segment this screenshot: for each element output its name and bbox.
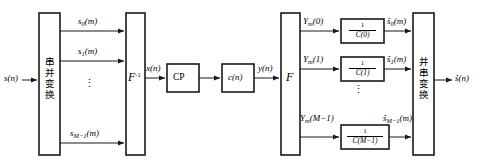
signal-label-s1: s1(m)	[78, 46, 97, 56]
signal-label-x: x(n)	[146, 63, 161, 73]
input-label: s(n)	[4, 73, 18, 83]
block-label-cp: CP	[173, 72, 185, 82]
signal-label-ym0: Ym(0)	[303, 16, 323, 26]
equalizer-fraction-m1: 1 C(M−1)	[347, 128, 383, 145]
block-label-idft: F-1	[128, 70, 141, 85]
output-label: ŝ(n)	[455, 73, 469, 83]
ellipsis-left: ⋮	[83, 82, 95, 86]
signal-label-sm1: sM−1(m)	[70, 128, 99, 138]
ofdm-block-diagram: s(n) ŝ(n) 串并变换 并串变换 F-1 F CP c(n) s0(m) …	[0, 0, 482, 166]
block-label-dft: F	[286, 70, 293, 85]
block-label-channel: c(n)	[228, 72, 243, 82]
signal-label-shat1: ŝ1(m)	[387, 54, 406, 64]
equalizer-fraction-1: 1 C(1)	[349, 60, 376, 77]
equalizer-fraction-0: 1 C(0)	[349, 22, 376, 39]
idft-superscript: -1	[135, 71, 140, 78]
signal-label-s0: s0(m)	[78, 16, 97, 26]
block-label-parallel-to-serial: 并串变换	[418, 57, 428, 101]
signal-label-shatm1: ŝM−1(m)	[383, 113, 412, 123]
ellipsis-right: ⋮	[352, 88, 364, 92]
signal-label-ym1: Ym(1)	[303, 54, 323, 64]
signal-label-y: y(n)	[258, 63, 273, 73]
signal-label-shat0: ŝ0(m)	[387, 16, 406, 26]
diagram-canvas	[0, 0, 482, 166]
signal-label-ymm1: Ym(M−1)	[300, 113, 334, 123]
block-label-serial-to-parallel: 串并变换	[44, 57, 54, 101]
